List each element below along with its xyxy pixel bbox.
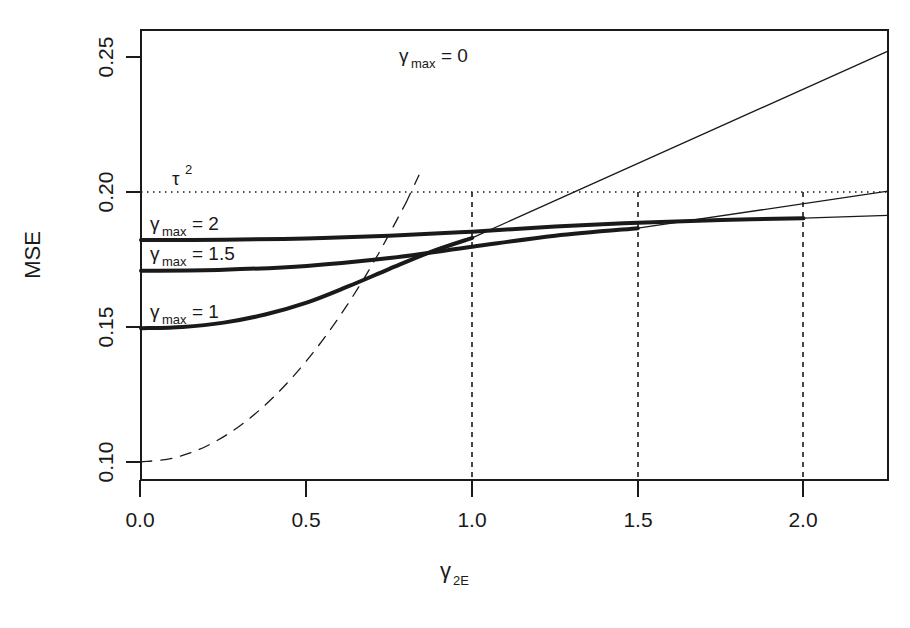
gamma-max-0-value: = 0 [441, 45, 468, 66]
y-axis-tick-labels: 0.10 0.15 0.20 0.25 [94, 37, 117, 483]
gamma-max-0-symbol: γ [399, 45, 409, 66]
y-tick-label-0: 0.10 [94, 442, 117, 483]
gamma-max-2-value: = 2 [192, 213, 219, 234]
plot-frame [141, 30, 888, 480]
gamma-max-2-annotation: γ max = 2 [150, 213, 219, 239]
series-curve-1 [141, 238, 472, 328]
x-axis-ticks [140, 480, 803, 497]
series-curve-0-extension [406, 174, 419, 202]
y-axis-ticks [126, 57, 141, 462]
series-curve-2 [472, 51, 888, 238]
y-tick-label-2: 0.20 [94, 172, 117, 213]
x-tick-label-4: 2.0 [788, 508, 817, 531]
x-tick-label-3: 1.5 [623, 508, 652, 531]
gamma-max-1-5-subscript: max [162, 254, 187, 269]
x-tick-label-2: 1.0 [457, 508, 486, 531]
x-axis-title-gamma: γ [440, 558, 451, 583]
x-tick-label-1: 0.5 [291, 508, 320, 531]
series-layer [141, 51, 888, 462]
y-axis-title: MSE [20, 231, 45, 279]
gamma-max-1-5-annotation: γ max = 1.5 [150, 243, 235, 269]
gamma-max-1-5-symbol: γ [150, 243, 160, 264]
gamma-max-1-symbol: γ [150, 301, 160, 322]
gamma-max-2-symbol: γ [150, 213, 160, 234]
gamma-max-0-annotation: γ max = 0 [399, 45, 468, 71]
gamma-max-1-value: = 1 [192, 301, 219, 322]
tau-symbol: τ [172, 168, 180, 189]
series-curve-6 [804, 215, 888, 218]
y-tick-label-3: 0.25 [94, 37, 117, 78]
gamma-max-0-subscript: max [411, 56, 436, 71]
x-axis-tick-labels: 0.0 0.5 1.0 1.5 2.0 [125, 508, 817, 531]
x-axis-title-subscript: 2E [453, 573, 469, 588]
x-tick-label-0: 0.0 [125, 508, 154, 531]
tau-exponent: 2 [185, 162, 192, 177]
figure-panel: 0.10 0.15 0.20 0.25 MSE 0.0 0.5 1.0 1.5 … [0, 0, 910, 628]
x-axis-title: γ 2E [440, 558, 469, 588]
chart-svg: 0.10 0.15 0.20 0.25 MSE 0.0 0.5 1.0 1.5 … [0, 0, 910, 628]
gamma-max-2-subscript: max [162, 224, 187, 239]
gamma-max-1-subscript: max [162, 312, 187, 327]
gamma-max-1-5-value: = 1.5 [192, 243, 235, 264]
y-tick-label-1: 0.15 [94, 307, 117, 348]
tau-squared-annotation: τ 2 [172, 162, 192, 189]
